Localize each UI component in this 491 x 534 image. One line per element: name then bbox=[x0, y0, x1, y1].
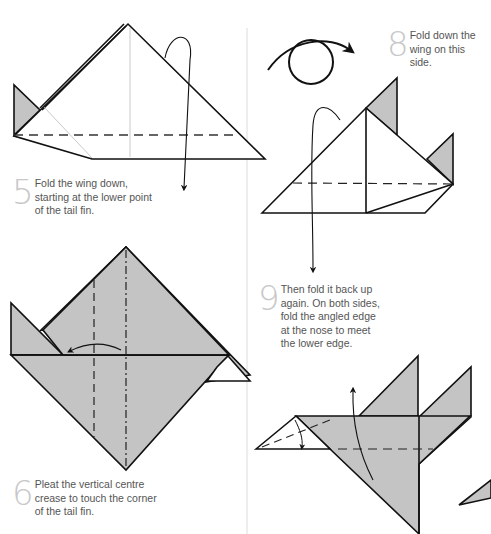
step-9-caption: 9 Then fold it back up again. On both si… bbox=[258, 283, 380, 351]
step-number: 9 bbox=[258, 283, 279, 313]
step-9-diagram bbox=[256, 356, 491, 534]
turn-over-arrow-icon bbox=[268, 41, 350, 70]
step-instruction: Then fold it back up again. On both side… bbox=[281, 283, 380, 351]
step-number: 6 bbox=[12, 478, 33, 508]
step-8-caption: 8 Fold down the wing on this side. bbox=[387, 29, 476, 70]
step-6-caption: 6 Pleat the vertical centre crease to to… bbox=[12, 478, 157, 519]
upper-fin bbox=[359, 356, 418, 416]
wing bbox=[14, 24, 265, 159]
step-instruction: Fold the wing down, starting at the lowe… bbox=[35, 177, 152, 218]
step-8-diagram bbox=[262, 40, 453, 270]
step-number: 8 bbox=[387, 29, 408, 59]
next-step-partial bbox=[459, 480, 491, 505]
origami-diagrams bbox=[0, 0, 491, 534]
step-instruction: Pleat the vertical centre crease to touc… bbox=[35, 478, 157, 519]
step-5-caption: 5 Fold the wing down, starting at the lo… bbox=[12, 177, 152, 218]
step-number: 5 bbox=[12, 177, 33, 207]
step-5-diagram bbox=[14, 24, 265, 188]
step-instruction: Fold down the wing on this side. bbox=[410, 29, 476, 70]
step-6-diagram bbox=[11, 247, 250, 470]
body bbox=[11, 355, 229, 470]
